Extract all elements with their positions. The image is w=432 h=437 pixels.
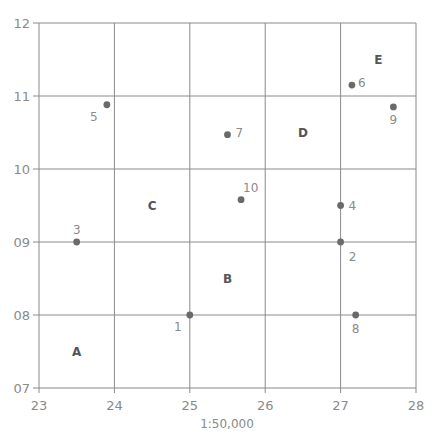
point-marker-icon bbox=[352, 312, 359, 319]
x-axis-ticks: 232425262728 bbox=[31, 398, 425, 413]
point-marker-icon bbox=[103, 101, 110, 108]
x-tick-label: 26 bbox=[257, 398, 274, 413]
point-marker-icon bbox=[186, 312, 193, 319]
map-point-10: 10 bbox=[238, 181, 259, 203]
zone-labels: ABCDE bbox=[72, 53, 382, 359]
y-tick-label: 12 bbox=[13, 16, 30, 31]
point-marker-icon bbox=[224, 131, 231, 138]
y-tick-label: 08 bbox=[13, 308, 30, 323]
point-marker-icon bbox=[390, 104, 397, 111]
x-tick-label: 24 bbox=[106, 398, 123, 413]
point-label: 4 bbox=[349, 199, 357, 213]
point-label: 3 bbox=[73, 223, 81, 237]
x-tick-label: 28 bbox=[408, 398, 425, 413]
y-tick-label: 09 bbox=[13, 235, 30, 250]
point-marker-icon bbox=[349, 82, 356, 89]
zone-label-a: A bbox=[72, 345, 82, 359]
y-tick-label: 07 bbox=[13, 381, 30, 396]
map-point-9: 9 bbox=[390, 104, 398, 127]
point-marker-icon bbox=[337, 202, 344, 209]
point-label: 2 bbox=[349, 250, 357, 264]
point-label: 9 bbox=[390, 113, 398, 127]
point-marker-icon bbox=[337, 239, 344, 246]
zone-label-b: B bbox=[223, 272, 232, 286]
x-tick-label: 25 bbox=[182, 398, 199, 413]
zone-label-e: E bbox=[374, 53, 382, 67]
point-marker-icon bbox=[73, 239, 80, 246]
map-point-5: 5 bbox=[90, 101, 110, 123]
point-label: 6 bbox=[358, 76, 366, 90]
y-tick-label: 10 bbox=[13, 162, 30, 177]
map-point-6: 6 bbox=[349, 76, 366, 90]
zone-label-c: C bbox=[148, 199, 157, 213]
y-axis-ticks: 070809101112 bbox=[13, 16, 30, 396]
map-point-8: 8 bbox=[352, 312, 360, 336]
y-tick-label: 11 bbox=[13, 89, 30, 104]
grid-map: 232425262728 070809101112 ABCDE 12345678… bbox=[0, 0, 432, 437]
scale-label: 1:50,000 bbox=[200, 417, 254, 431]
point-label: 10 bbox=[243, 181, 258, 195]
map-point-4: 4 bbox=[337, 199, 356, 213]
map-points: 12345678910 bbox=[73, 76, 397, 336]
point-label: 5 bbox=[90, 110, 98, 124]
point-label: 8 bbox=[352, 322, 360, 336]
point-marker-icon bbox=[238, 196, 245, 203]
map-point-3: 3 bbox=[73, 223, 81, 245]
x-tick-label: 23 bbox=[31, 398, 48, 413]
zone-label-d: D bbox=[298, 126, 308, 140]
map-point-7: 7 bbox=[224, 126, 243, 140]
point-label: 7 bbox=[236, 126, 244, 140]
point-label: 1 bbox=[174, 320, 182, 334]
x-tick-label: 27 bbox=[332, 398, 349, 413]
